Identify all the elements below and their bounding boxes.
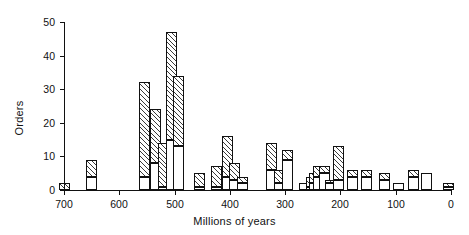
plot-area (64, 22, 451, 190)
bar-segment-white (139, 177, 150, 190)
y-axis-tick-label: 10 (31, 150, 55, 162)
x-axis-tick-label: 400 (215, 198, 245, 210)
histogram-bar (334, 146, 343, 190)
x-axis-tick (285, 191, 286, 195)
bar-segment-hatched (266, 143, 277, 170)
y-axis-title: Orders (13, 100, 25, 135)
y-axis-tick-label: 50 (31, 16, 55, 28)
histogram-bar (380, 173, 389, 190)
bar-segment-white (379, 180, 390, 190)
bar-segment-hatched (139, 82, 150, 176)
histogram-bar (409, 170, 418, 190)
x-axis-tick (119, 191, 120, 195)
bar-segment-white (393, 183, 404, 190)
bar-segment-hatched (282, 150, 293, 160)
bar-segment-hatched (86, 160, 97, 177)
x-axis-tick (340, 191, 341, 195)
bar-segment-white (347, 177, 358, 190)
x-axis-tick (175, 191, 176, 195)
histogram-bar (238, 177, 247, 190)
bar-segment-hatched (379, 173, 390, 180)
bar-segment-hatched (194, 173, 205, 186)
x-axis-tick-label: 0 (436, 198, 466, 210)
y-axis-tick-label: 40 (31, 50, 55, 62)
x-axis-tick (396, 191, 397, 195)
y-axis-tick (60, 156, 64, 157)
x-axis-tick-label: 700 (49, 198, 79, 210)
y-axis-tick (60, 56, 64, 57)
x-axis-tick-label: 100 (381, 198, 411, 210)
bar-segment-hatched (173, 76, 184, 147)
bar-segment-hatched (408, 170, 419, 177)
y-axis-tick-label: 0 (31, 184, 55, 196)
histogram-bar (195, 173, 204, 190)
histogram-bar (394, 183, 403, 190)
y-axis-tick (60, 123, 64, 124)
histogram-bar (87, 160, 96, 190)
bar-segment-white (408, 177, 419, 190)
histogram-chart: Orders Millions of years 010203040507006… (0, 0, 469, 235)
y-axis-tick-label: 20 (31, 117, 55, 129)
bar-segment-hatched (443, 183, 454, 186)
x-axis-tick (451, 191, 452, 195)
histogram-bar (174, 76, 183, 190)
x-axis-tick-label: 600 (104, 198, 134, 210)
bar-segment-hatched (237, 177, 248, 184)
bar-segment-white (86, 177, 97, 190)
x-axis-line (64, 190, 452, 191)
y-axis-tick-label: 30 (31, 83, 55, 95)
bar-segment-white (173, 146, 184, 190)
bar-segment-white (361, 177, 372, 190)
histogram-bar (444, 183, 453, 190)
y-axis-line (64, 22, 65, 191)
bar-segment-hatched (361, 170, 372, 177)
x-axis-tick (64, 191, 65, 195)
x-axis-title: Millions of years (0, 215, 469, 227)
x-axis-tick (230, 191, 231, 195)
x-axis-tick-label: 500 (160, 198, 190, 210)
bar-segment-white (237, 183, 248, 190)
bar-segment-hatched (211, 166, 222, 186)
histogram-bar (422, 173, 431, 190)
histogram-bar (212, 166, 221, 190)
bar-segment-white (333, 180, 344, 190)
histogram-bar (362, 170, 371, 190)
bar-segment-hatched (319, 166, 330, 173)
bar-segment-hatched (333, 146, 344, 180)
histogram-bar (140, 82, 149, 190)
bar-segment-white (282, 160, 293, 190)
x-axis-tick-label: 300 (270, 198, 300, 210)
y-axis-tick (60, 22, 64, 23)
bar-segment-hatched (347, 170, 358, 177)
bar-segment-white (421, 173, 432, 190)
x-axis-tick-label: 200 (325, 198, 355, 210)
y-axis-tick (60, 89, 64, 90)
histogram-bar (283, 150, 292, 190)
histogram-bar (348, 170, 357, 190)
